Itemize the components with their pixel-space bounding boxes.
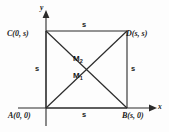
y-axis-arrowhead [43, 10, 50, 18]
midpoint-M1-subscript: 1 [80, 75, 83, 81]
side-label-top: s [82, 21, 86, 29]
vertex-label-D: D(s, s) [126, 30, 147, 38]
midpoint-label-M1: M1 [73, 72, 83, 81]
midpoint-M2-subscript: 2 [80, 58, 83, 64]
midpoint-M1-base: M [73, 71, 80, 80]
vertex-label-A: A(0, 0) [8, 112, 31, 120]
diagonals [46, 31, 127, 108]
y-axis-label: y [40, 4, 43, 12]
side-label-right: s [131, 65, 135, 73]
midpoint-M2-base: M [73, 54, 80, 63]
vertex-label-B: B(s, 0) [122, 112, 144, 120]
midpoint-label-M2: M2 [73, 55, 83, 64]
x-axis-arrowhead [149, 105, 157, 112]
x-axis-label: x [158, 103, 162, 111]
side-label-bottom: s [82, 111, 86, 119]
vertex-label-C: C(0, s) [7, 30, 29, 38]
geometry-figure: C(0, s) D(s, s) A(0, 0) B(s, 0) s s s s … [0, 0, 169, 132]
side-label-left: s [35, 65, 39, 73]
